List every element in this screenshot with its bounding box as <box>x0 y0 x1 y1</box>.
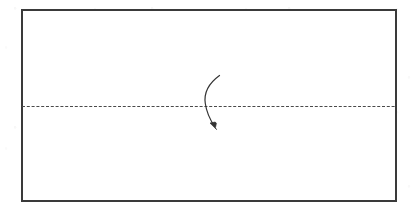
diagram-canvas <box>0 0 412 211</box>
fold-diagram-figure <box>0 0 412 211</box>
paper-sheet-rectangle <box>22 10 396 201</box>
